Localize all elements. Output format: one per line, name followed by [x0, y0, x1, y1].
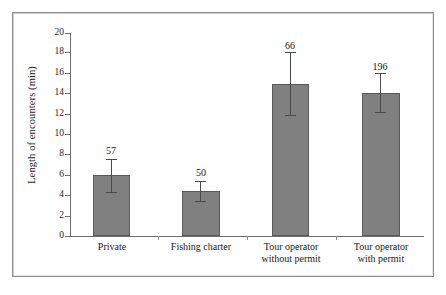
y-tick-6	[65, 175, 70, 176]
category-label-fishing-charter: Fishing charter	[161, 241, 241, 253]
y-tick-label-18: 18	[40, 47, 64, 57]
y-axis-line	[70, 33, 71, 237]
error-bar-fishing-charter	[200, 181, 201, 201]
value-label-private: 57	[86, 145, 136, 156]
y-tick-20	[65, 33, 70, 34]
y-tick-18	[65, 52, 70, 53]
y-tick-14	[65, 93, 70, 94]
y-tick-8	[65, 154, 70, 155]
y-tick-label-12: 12	[40, 109, 64, 119]
y-tick-12	[65, 114, 70, 115]
error-bar-tour-operator-with-permit	[380, 73, 381, 112]
category-label-tour-operator-with-permit-line-2: with permit	[340, 253, 422, 265]
error-cap-lower-tour-operator-without-permit	[285, 115, 296, 116]
value-label-fishing-charter: 50	[176, 167, 226, 178]
category-label-tour-operator-with-permit-line-1: Tour operator	[340, 241, 422, 253]
error-cap-lower-fishing-charter	[195, 201, 206, 202]
y-tick-label-6: 6	[40, 170, 64, 180]
y-tick-16	[65, 73, 70, 74]
category-label-fishing-charter-line-1: Fishing charter	[161, 241, 241, 253]
x-tick-separator-3	[336, 236, 337, 240]
x-tick-separator-1	[158, 236, 159, 240]
category-label-tour-operator-with-permit: Tour operator with permit	[340, 241, 422, 265]
error-cap-lower-private	[106, 192, 117, 193]
error-cap-upper-tour-operator-without-permit	[285, 52, 296, 53]
y-tick-label-20: 20	[40, 28, 64, 38]
y-tick-label-2: 2	[40, 211, 64, 221]
y-tick-label-4: 4	[40, 190, 64, 200]
error-cap-upper-private	[106, 159, 117, 160]
y-tick-label-8: 8	[40, 149, 64, 159]
value-label-tour-operator-with-permit: 196	[355, 61, 405, 72]
value-label-tour-operator-without-permit: 66	[265, 40, 315, 51]
y-tick-2	[65, 216, 70, 217]
category-label-tour-operator-without-permit: Tour operator without permit	[250, 241, 332, 265]
error-bar-private	[111, 159, 112, 193]
category-label-private-line-1: Private	[76, 241, 148, 253]
y-tick-label-0: 0	[40, 231, 64, 241]
category-label-tour-operator-without-permit-line-1: Tour operator	[250, 241, 332, 253]
y-axis-title: Length of encounters (min)	[25, 30, 39, 220]
y-tick-label-16: 16	[40, 68, 64, 78]
y-tick-0	[65, 236, 70, 237]
bar-fishing-charter	[182, 191, 220, 236]
error-cap-upper-tour-operator-with-permit	[375, 73, 386, 74]
y-tick-4	[65, 195, 70, 196]
bar-chart-plot-area: Length of encounters (min) 0 2 4 6 8 10 …	[0, 0, 446, 295]
category-label-private: Private	[76, 241, 148, 253]
x-tick-separator-2	[247, 236, 248, 240]
error-cap-lower-tour-operator-with-permit	[375, 112, 386, 113]
y-tick-label-14: 14	[40, 88, 64, 98]
error-bar-tour-operator-without-permit	[290, 52, 291, 114]
error-cap-upper-fishing-charter	[195, 181, 206, 182]
y-tick-10	[65, 134, 70, 135]
bar-tour-operator-with-permit	[362, 93, 400, 236]
category-label-tour-operator-without-permit-line-2: without permit	[250, 253, 332, 265]
y-tick-label-10: 10	[40, 129, 64, 139]
